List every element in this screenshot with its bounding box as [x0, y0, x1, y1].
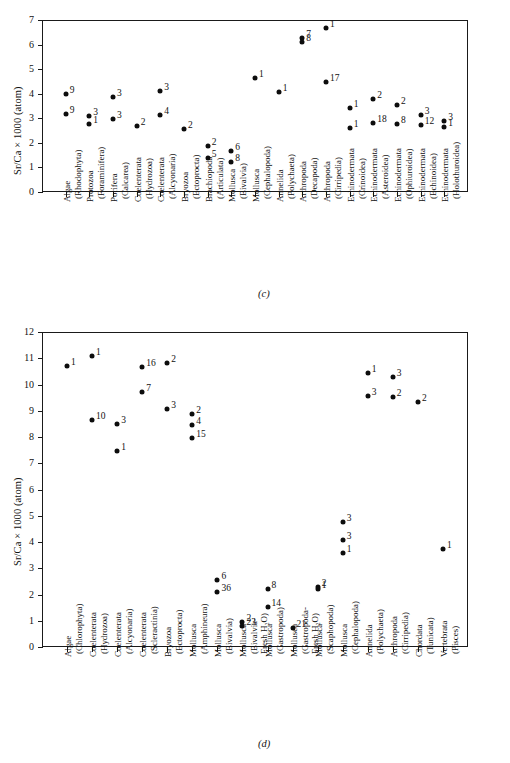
data-point-count-label: 1 — [448, 119, 453, 129]
data-point — [87, 122, 92, 127]
y-axis-tick — [38, 332, 43, 333]
data-point — [442, 119, 447, 124]
data-point — [365, 370, 370, 375]
data-point-count-label: 4 — [196, 417, 201, 427]
y-axis-tick — [38, 647, 43, 648]
y-axis-tick — [38, 437, 43, 438]
data-point — [265, 604, 270, 609]
data-point — [190, 436, 195, 441]
y-axis-tick-label: 3 — [8, 112, 34, 123]
data-point-count-label: 23 — [246, 618, 256, 628]
data-point-count-label: 2 — [212, 138, 217, 148]
data-point — [115, 449, 120, 454]
data-point-count-label: 1 — [330, 20, 335, 30]
x-axis-category-label: Mollusca(Bivalvia) — [227, 163, 248, 202]
data-point-count-label: 1 — [71, 358, 76, 368]
data-point — [111, 95, 116, 100]
y-axis-tick — [38, 568, 43, 569]
y-axis-tick-label: 7 — [8, 14, 34, 25]
y-axis-tick — [38, 94, 43, 95]
data-point — [390, 395, 395, 400]
data-point-count-label: 8 — [401, 116, 406, 126]
x-axis-category-label: Coelenterata(Alcyonaria) — [113, 609, 134, 657]
data-point-count-label: 1 — [354, 100, 359, 110]
x-axis-category-label: Porifera(Calcarea) — [109, 162, 130, 202]
data-point — [340, 551, 345, 556]
x-axis-category-label: Annelida(Polychaeta) — [364, 609, 385, 657]
y-axis-tick-label: 5 — [8, 510, 34, 521]
data-point — [205, 143, 210, 148]
data-point-count-label: 3 — [347, 532, 352, 542]
data-point-count-label: 3 — [347, 514, 352, 524]
data-point-count-label: 9 — [70, 86, 75, 96]
data-point — [229, 160, 234, 165]
y-axis-tick-label: 3 — [8, 562, 34, 573]
data-point — [253, 76, 258, 81]
x-axis-category-label: Brachiopoda(Articulata) — [204, 157, 225, 202]
y-axis-tick-label: 6 — [8, 484, 34, 495]
x-axis-category-label: Mollusca(Bivalvia) — [213, 618, 234, 657]
y-axis-tick-label: 0 — [8, 641, 34, 652]
data-point — [415, 399, 420, 404]
data-point — [65, 364, 70, 369]
data-point — [140, 364, 145, 369]
data-point — [276, 89, 281, 94]
y-axis-tick — [38, 358, 43, 359]
data-point-count-label: 1 — [372, 365, 377, 375]
data-point-count-label: 1 — [447, 541, 452, 551]
data-point — [290, 626, 295, 631]
data-point-count-label: 2 — [397, 389, 402, 399]
data-point-count-label: 1 — [283, 84, 288, 94]
data-point — [90, 353, 95, 358]
y-axis-tick-label: 2 — [8, 589, 34, 600]
data-point — [347, 125, 352, 130]
x-axis-category-label: Mollusca(Cephalopoda) — [251, 146, 272, 202]
y-axis-tick-label: 10 — [8, 379, 34, 390]
x-axis-category-label: Mollusca(Amphineura) — [188, 604, 209, 657]
data-point — [315, 587, 320, 592]
x-axis-category-label: Coelenterata(Hydrozoa) — [88, 612, 109, 657]
x-axis-category-label: Algae(Rhodophyta) — [62, 150, 83, 202]
data-point-count-label: 3 — [171, 401, 176, 411]
data-point — [365, 394, 370, 399]
data-point-count-label: 9 — [70, 106, 75, 116]
data-point-count-label: 3 — [425, 107, 430, 117]
x-axis-category-label: Coelenterata(Hydrozoa) — [133, 157, 154, 202]
data-point — [340, 520, 345, 525]
data-point — [440, 547, 445, 552]
x-axis-category-label: Echinodermata(Echinoidea) — [417, 148, 438, 202]
data-point — [140, 390, 145, 395]
y-axis-tick — [38, 20, 43, 21]
panel-d: Sr/Ca × 1000 (atom) (d) 0123456789101112… — [0, 326, 510, 763]
y-axis-tick — [38, 595, 43, 596]
y-axis-tick — [38, 490, 43, 491]
data-point-count-label: 3 — [164, 83, 169, 93]
data-point-count-label: 6 — [221, 572, 226, 582]
data-point-count-label: 21 — [297, 620, 307, 630]
x-axis-category-label: Coelenterata(Alcyonaria) — [156, 154, 177, 202]
figure-root: Sr/Ca × 1000 (atom) (c) 01234567Algae(Rh… — [0, 0, 510, 763]
data-point-count-label: 10 — [96, 412, 106, 422]
data-point — [90, 418, 95, 423]
data-point-count-label: 7 — [146, 384, 151, 394]
data-point — [265, 586, 270, 591]
y-axis-tick — [38, 621, 43, 622]
data-point-count-label: 1 — [259, 70, 264, 80]
y-axis-tick-label: 4 — [8, 88, 34, 99]
x-axis-category-label: Arthropoda(Cirripedia) — [389, 612, 410, 657]
data-point-count-label: 1 — [93, 116, 98, 126]
y-axis-tick-label: 12 — [8, 326, 34, 337]
x-axis-category-label: Vertebrata(Pisces) — [439, 621, 460, 657]
y-axis-tick-label: 6 — [8, 39, 34, 50]
x-axis-category-label: Algae(Chlorophyta) — [63, 604, 84, 657]
data-point — [371, 97, 376, 102]
x-axis-category-label: Mollusca(Cephalopoda) — [339, 601, 360, 657]
data-point — [182, 126, 187, 131]
data-point-count-label: 3 — [117, 111, 122, 121]
y-axis-tick-label: 0 — [8, 186, 34, 197]
panel-letter-d: (d) — [258, 738, 270, 749]
data-point — [395, 122, 400, 127]
y-axis-tick — [38, 385, 43, 386]
x-axis-category-label: Coelenterata(Scleractinia) — [138, 606, 159, 657]
x-axis-category-label: Bryozoa(Ectoprocta) — [163, 610, 184, 657]
